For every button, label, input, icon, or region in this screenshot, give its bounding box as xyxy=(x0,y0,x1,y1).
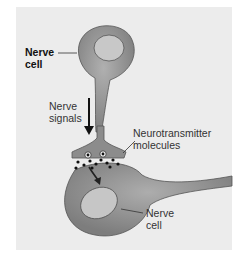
label-bottom-cell: Nerve cell xyxy=(146,207,174,231)
label-neurotransmitter: Neurotransmitter molecules xyxy=(133,127,211,151)
top-nucleus xyxy=(94,35,124,61)
label-nerve-signals: Nerve signals xyxy=(49,100,82,124)
axon-terminal xyxy=(72,126,126,158)
top-nerve-cell xyxy=(78,26,134,132)
signal-arrow xyxy=(84,98,94,135)
label-top-cell: Nerve cell xyxy=(25,46,54,70)
